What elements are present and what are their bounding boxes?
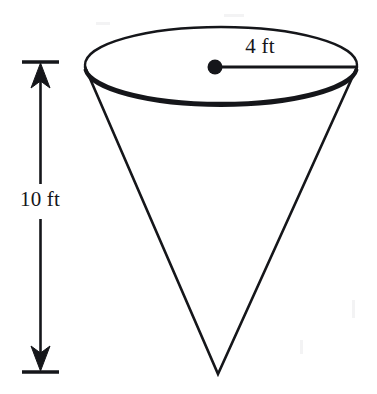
center-point-dot <box>208 60 223 75</box>
radius-dimension-label: 4 ft <box>231 36 289 57</box>
cone-slant-lines <box>85 67 357 374</box>
cone-rim-front-arc <box>85 70 356 105</box>
height-dimension-label: 10 ft <box>5 189 75 210</box>
cone-figure: 10 ft 4 ft <box>0 0 377 394</box>
